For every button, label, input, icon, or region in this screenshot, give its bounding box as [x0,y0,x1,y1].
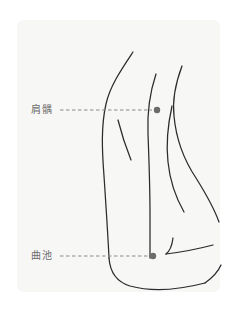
wrist-edge-contour [205,265,221,283]
point-marker-jianyu[interactable] [154,107,160,113]
leader-lines [60,110,152,256]
point-markers [150,107,160,259]
forearm-outer-contour [109,258,205,290]
body-outline-drawing [0,0,237,316]
acupuncture-diagram: 肩髃 曲池 [0,0,237,316]
elbow-joint-line [166,238,173,254]
point-label-jianyu: 肩髃 [31,104,52,116]
flank-front-contour [148,74,156,258]
forearm-upper-contour [166,245,213,254]
figure-caption [0,304,237,316]
torso-inner-contour [167,106,184,212]
back-contour [173,66,219,222]
point-label-quchi: 曲池 [31,250,52,262]
point-marker-quchi[interactable] [150,253,156,259]
deltoid-crease-line [118,120,131,160]
